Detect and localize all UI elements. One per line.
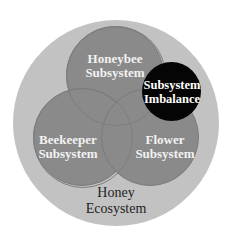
beekeeper-label-line1: Beekeeper (28, 133, 108, 147)
imbalance-label-line2: Imbalance (140, 92, 204, 106)
beekeeper-label: Beekeeper Subsystem (28, 133, 108, 161)
ecosystem-label: Honey Ecosystem (76, 185, 156, 217)
ecosystem-label-line1: Honey (76, 185, 156, 201)
honeybee-label: Honeybee Subsystem (75, 52, 155, 80)
flower-label-line2: Subsystem (125, 147, 205, 161)
imbalance-label: Subsystem Imbalance (140, 78, 204, 106)
beekeeper-label-line2: Subsystem (28, 147, 108, 161)
flower-label-line1: Flower (125, 133, 205, 147)
honeybee-label-line1: Honeybee (75, 52, 155, 66)
flower-label: Flower Subsystem (125, 133, 205, 161)
ecosystem-label-line2: Ecosystem (76, 201, 156, 217)
imbalance-label-line1: Subsystem (140, 78, 204, 92)
